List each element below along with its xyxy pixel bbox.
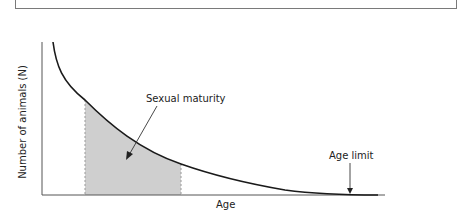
sexual-maturity-label: Sexual maturity [146,93,226,104]
y-axis-label: Number of animals (N) [17,65,28,179]
age-limit-arrowhead-icon [347,188,353,194]
x-axis-label: Age [216,199,235,210]
age-limit-label: Age limit [329,150,374,161]
